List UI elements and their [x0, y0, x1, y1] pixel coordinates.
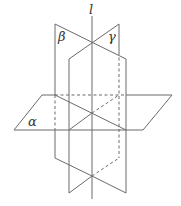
- diagram-canvas: l β γ α: [0, 0, 181, 206]
- label-gamma: γ: [108, 29, 116, 44]
- plane-gamma: [69, 24, 119, 193]
- planes-diagram: l β γ α: [0, 0, 181, 206]
- label-alpha: α: [28, 114, 37, 129]
- label-l: l: [89, 2, 93, 17]
- label-beta: β: [57, 29, 66, 44]
- plane-beta: [55, 24, 126, 193]
